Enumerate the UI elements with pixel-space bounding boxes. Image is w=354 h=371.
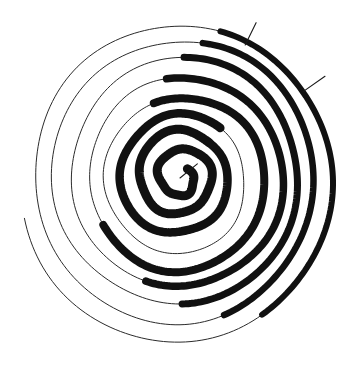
- spiral-figure-canvas: [0, 0, 354, 371]
- spiral-drawing: [0, 0, 354, 371]
